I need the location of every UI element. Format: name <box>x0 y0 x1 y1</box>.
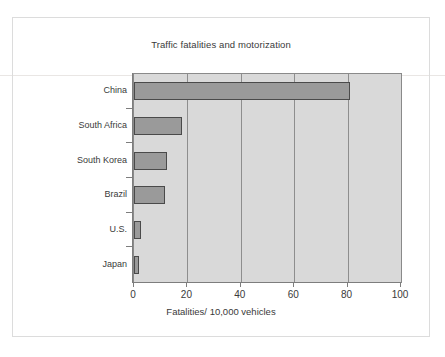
y-axis-line <box>132 73 133 283</box>
bar-row <box>134 256 401 274</box>
x-axis-tick-label-40: 40 <box>234 289 245 300</box>
x-axis-tick <box>133 282 134 287</box>
gridline <box>348 74 349 282</box>
x-axis-tick <box>186 282 187 287</box>
bar-row <box>134 186 401 204</box>
x-axis-tick <box>400 282 401 287</box>
y-axis-label-south-korea: South Korea <box>77 155 127 165</box>
bar-south-korea <box>134 152 167 170</box>
bar-brazil <box>134 186 165 204</box>
plot-area <box>133 73 402 283</box>
y-axis-label-brazil: Brazil <box>104 189 127 199</box>
bar-china <box>134 82 350 100</box>
y-axis-tick <box>126 212 132 213</box>
x-axis-tick-label-60: 60 <box>288 289 299 300</box>
bar-south-africa <box>134 117 182 135</box>
y-axis-label-china: China <box>103 85 127 95</box>
x-axis-tick <box>347 282 348 287</box>
x-axis-tick-label-80: 80 <box>341 289 352 300</box>
y-axis-tick <box>126 142 132 143</box>
x-axis-tick-label-0: 0 <box>130 289 136 300</box>
y-axis-label-south-africa: South Africa <box>78 120 127 130</box>
gridline <box>294 74 295 282</box>
y-axis-tick <box>126 246 132 247</box>
x-axis-tick-label-100: 100 <box>392 289 409 300</box>
x-axis-tick <box>293 282 294 287</box>
gridline <box>187 74 188 282</box>
bar-japan <box>134 256 139 274</box>
bar-row <box>134 117 401 135</box>
bar-row <box>134 82 401 100</box>
chart-title: Traffic fatalities and motorization <box>12 39 430 50</box>
bar-row <box>134 221 401 239</box>
y-axis-label-u-s: U.S. <box>109 224 127 234</box>
y-axis-label-japan: Japan <box>102 259 127 269</box>
x-axis-line <box>132 282 401 283</box>
x-axis-tick <box>240 282 241 287</box>
x-axis-title: Fatalities/ 10,000 vehicles <box>12 306 430 317</box>
y-axis-tick <box>126 177 132 178</box>
bar-row <box>134 152 401 170</box>
gridline <box>241 74 242 282</box>
chart-figure: Traffic fatalities and motorization Fata… <box>12 17 430 337</box>
bar-u-s <box>134 221 141 239</box>
x-axis-tick-label-20: 20 <box>181 289 192 300</box>
y-axis-tick <box>126 108 132 109</box>
